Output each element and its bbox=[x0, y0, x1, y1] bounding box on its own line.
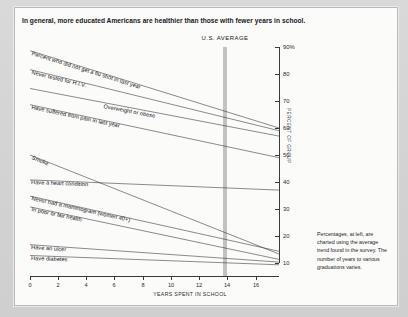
y-tick-label: 80 bbox=[283, 71, 289, 77]
x-tick bbox=[86, 276, 87, 280]
y-axis-line bbox=[279, 47, 280, 263]
screenshot-root: In general, more educated Americans are … bbox=[0, 0, 408, 317]
y-tick bbox=[275, 182, 279, 183]
chart-card: In general, more educated Americans are … bbox=[14, 7, 398, 306]
y-axis-title: PERCENT OF GROUP bbox=[286, 108, 291, 164]
x-axis-title: YEARS SPENT IN SCHOOL bbox=[115, 291, 265, 297]
x-tick bbox=[30, 276, 31, 280]
x-tick-label: 14 bbox=[224, 282, 230, 288]
x-tick-label: 2 bbox=[56, 282, 59, 288]
x-tick-label: 12 bbox=[196, 282, 202, 288]
y-tick bbox=[275, 209, 279, 210]
y-tick bbox=[275, 236, 279, 237]
y-tick bbox=[275, 74, 279, 75]
y-tick bbox=[275, 101, 279, 102]
x-tick bbox=[143, 276, 144, 280]
x-tick bbox=[58, 276, 59, 280]
y-tick bbox=[275, 155, 279, 156]
x-tick-label: 10 bbox=[168, 282, 174, 288]
y-tick-label: 10 bbox=[283, 260, 289, 266]
x-tick bbox=[227, 276, 228, 280]
y-tick-label: 90% bbox=[283, 44, 295, 50]
x-axis-line bbox=[30, 276, 279, 277]
y-tick bbox=[275, 263, 279, 264]
x-tick-label: 4 bbox=[84, 282, 87, 288]
chart-footnote: Percentages, at left, are charted using … bbox=[317, 230, 391, 271]
x-tick-label: 16 bbox=[253, 282, 259, 288]
series-label-diabetes: Have diabetes bbox=[31, 255, 68, 262]
y-tick bbox=[275, 128, 279, 129]
x-tick bbox=[199, 276, 200, 280]
x-tick-label: 6 bbox=[112, 282, 115, 288]
x-tick bbox=[256, 276, 257, 280]
y-tick-label: 40 bbox=[283, 179, 289, 185]
x-tick bbox=[171, 276, 172, 280]
y-tick-label: 30 bbox=[283, 206, 289, 212]
x-tick bbox=[114, 276, 115, 280]
x-tick-label: 0 bbox=[28, 282, 31, 288]
x-tick-label: 8 bbox=[141, 282, 144, 288]
y-tick-label: 70 bbox=[283, 98, 289, 104]
y-tick-label: 20 bbox=[283, 233, 289, 239]
y-tick bbox=[275, 47, 279, 48]
